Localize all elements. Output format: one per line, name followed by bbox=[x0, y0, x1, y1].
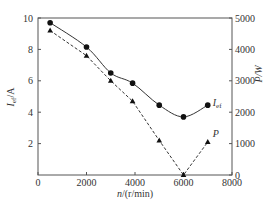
circle-marker bbox=[205, 102, 211, 108]
x-axis-label: n/(r/min) bbox=[117, 188, 153, 200]
plot-frame bbox=[38, 18, 232, 175]
circle-marker bbox=[156, 102, 162, 108]
y-right-tick-label: 4000 bbox=[235, 44, 255, 55]
y-tick-label: 6 bbox=[28, 75, 33, 86]
p-line bbox=[50, 31, 208, 175]
plot-border bbox=[38, 18, 232, 175]
series-ief: Ief bbox=[47, 20, 222, 120]
x-tick-label: 0 bbox=[36, 177, 41, 188]
ief-line bbox=[50, 23, 208, 117]
right-y-axis-label: P/W bbox=[253, 64, 264, 84]
p-series-label: P bbox=[212, 128, 219, 139]
x-tick-label: 6000 bbox=[174, 177, 194, 188]
circle-marker bbox=[84, 44, 90, 50]
right-y-axis: 010002000300040005000 bbox=[229, 13, 255, 181]
left-y-axis-label: Ief/A bbox=[5, 87, 18, 108]
y-tick-label: 10 bbox=[23, 13, 33, 24]
triangle-marker bbox=[84, 53, 90, 58]
x-tick-label: 2000 bbox=[77, 177, 97, 188]
ief-series-label: Ief bbox=[212, 97, 222, 110]
y-right-tick-label: 1000 bbox=[235, 138, 255, 149]
triangle-marker bbox=[47, 28, 53, 33]
y-right-tick-label: 2000 bbox=[235, 107, 255, 118]
series-p: P bbox=[47, 28, 219, 177]
y-tick-label: 4 bbox=[28, 107, 33, 118]
y-tick-label: 2 bbox=[28, 138, 33, 149]
triangle-marker bbox=[205, 139, 211, 144]
circle-marker bbox=[130, 80, 136, 86]
triangle-marker bbox=[156, 137, 162, 142]
x-tick-label: 4000 bbox=[125, 177, 145, 188]
circle-marker bbox=[181, 114, 187, 120]
y-right-tick-label: 5000 bbox=[235, 13, 255, 24]
x-axis: 02000400060008000 bbox=[36, 172, 243, 188]
x-tick-label: 8000 bbox=[222, 177, 242, 188]
chart: 246810 010002000300040005000 02000400060… bbox=[0, 0, 273, 208]
circle-marker bbox=[47, 20, 53, 26]
circle-marker bbox=[108, 70, 114, 76]
y-tick-label: 8 bbox=[28, 44, 33, 55]
y-right-tick-label: 3000 bbox=[235, 75, 255, 86]
